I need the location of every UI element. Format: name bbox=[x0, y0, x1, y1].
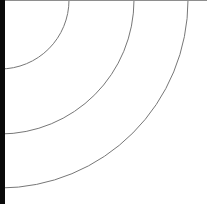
concentric-arcs-graphic bbox=[0, 0, 207, 204]
top-edge-line bbox=[0, 0, 207, 1]
canvas-background bbox=[0, 0, 207, 204]
left-edge-band bbox=[0, 0, 5, 204]
figure-canvas bbox=[0, 0, 207, 204]
